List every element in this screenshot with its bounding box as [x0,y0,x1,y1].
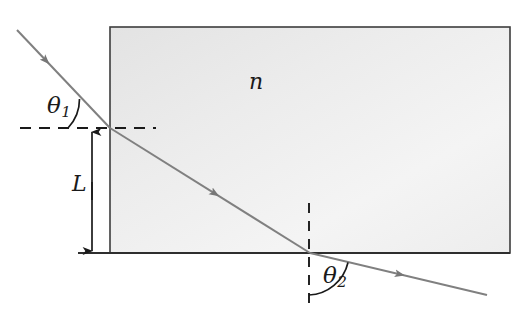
exit-angle-label: θ2 [323,264,347,290]
diagram-canvas [0,0,526,328]
incident-angle-label: θ1 [47,94,71,120]
medium-slab [110,27,510,253]
refractive-index-label: n [249,71,263,93]
thickness-label: L [72,173,87,195]
refraction-diagram: θ1 θ2 n L [0,0,526,328]
